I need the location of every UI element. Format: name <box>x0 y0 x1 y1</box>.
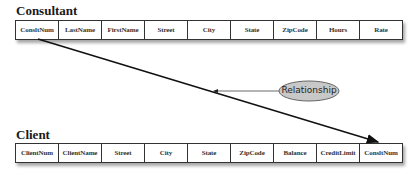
relationship-connector <box>0 0 416 176</box>
relationship-label: Relationship <box>278 85 340 95</box>
